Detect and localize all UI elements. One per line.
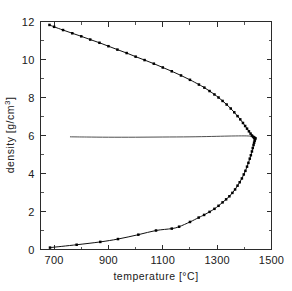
data-point (217, 96, 220, 99)
data-point (171, 70, 174, 73)
y-tick-label: 4 (28, 168, 34, 180)
data-point (231, 192, 234, 195)
data-point (228, 195, 231, 198)
data-point (221, 100, 224, 103)
y-axis-title: density [g/cm3] (3, 97, 16, 174)
y-tick-label: 12 (22, 16, 35, 28)
data-point (137, 233, 140, 236)
data-point (143, 59, 146, 62)
data-point (203, 214, 206, 217)
data-point (198, 83, 201, 86)
data-point (248, 130, 251, 133)
y-tick-label: 6 (28, 130, 34, 142)
data-point (189, 221, 192, 224)
y-axis-title-group: density [g/cm3] (3, 97, 16, 174)
data-point (75, 244, 78, 247)
data-point (225, 198, 228, 201)
data-point (171, 227, 174, 230)
data-point (208, 90, 211, 93)
data-point (236, 184, 239, 187)
data-point (162, 66, 165, 69)
data-point (241, 177, 244, 180)
data-point (155, 229, 158, 232)
data-point (62, 29, 64, 32)
y-tick-label: 0 (28, 244, 34, 256)
data-point (239, 118, 242, 121)
data-point (250, 154, 253, 157)
data-point (244, 170, 247, 173)
x-tick-label: 1500 (259, 254, 284, 266)
data-point (203, 86, 206, 89)
data-point (178, 225, 181, 228)
data-point (251, 150, 254, 153)
x-tick-label: 1300 (205, 254, 230, 266)
data-point (249, 157, 252, 160)
x-axis-title: temperature [°C] (113, 270, 198, 282)
data-point (213, 93, 216, 96)
y-tick-label: 8 (28, 92, 34, 104)
y-tick-label: 10 (22, 54, 35, 66)
data-point (189, 79, 192, 82)
data-point (89, 38, 92, 41)
x-tick-label: 700 (45, 254, 64, 266)
data-point (116, 48, 119, 51)
data-point (252, 147, 255, 150)
data-point (217, 205, 220, 208)
data-point (244, 125, 247, 128)
data-point (98, 42, 101, 45)
data-point (247, 162, 250, 165)
data-point (233, 111, 236, 114)
data-point (48, 24, 51, 27)
data-point (107, 45, 110, 48)
data-point (234, 188, 237, 191)
data-point (49, 246, 52, 249)
chart-canvas: 700900110013001500 024681012 temperature… (0, 0, 292, 291)
data-point (180, 74, 183, 77)
x-tick-label: 900 (99, 254, 118, 266)
data-point (221, 201, 224, 204)
data-point (236, 115, 239, 118)
data-point (246, 165, 249, 168)
data-point (80, 35, 83, 38)
y-tick-label: 2 (28, 206, 34, 218)
data-point (117, 238, 120, 241)
data-point (99, 241, 102, 244)
data-point (153, 62, 156, 65)
x-tick-label: 1100 (151, 254, 175, 266)
coexistence-curve-figure: 700900110013001500 024681012 temperature… (0, 0, 292, 291)
data-point (71, 32, 74, 35)
data-point (53, 26, 56, 29)
data-point (242, 122, 245, 125)
figure-background (0, 0, 292, 291)
data-point (134, 55, 137, 58)
data-point (125, 52, 128, 55)
data-point (252, 144, 255, 147)
data-point (197, 216, 200, 219)
data-point (243, 173, 246, 176)
data-point (225, 103, 228, 106)
data-point (238, 181, 241, 184)
data-point (246, 127, 249, 130)
data-point (208, 211, 211, 214)
data-point (254, 137, 257, 140)
data-point (213, 208, 216, 211)
data-point (229, 107, 232, 110)
